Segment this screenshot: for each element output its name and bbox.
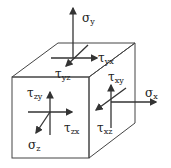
tau-yz-arrow — [66, 45, 88, 66]
label-tau-yx: τyx — [98, 51, 114, 66]
sigma-z-arrow — [36, 112, 50, 133]
label-tau-xy: τxy — [108, 70, 124, 85]
label-tau-xz: τxz — [97, 121, 112, 136]
label-tau-zx: τzx — [64, 121, 80, 136]
label-sigma-y: σy — [82, 11, 95, 26]
stress-element-diagram: σy τyx τyz τxy σx τxz τzy τzx σz — [0, 0, 171, 168]
label-sigma-z: σz — [28, 138, 40, 153]
label-sigma-x: σx — [145, 86, 158, 101]
label-tau-zy: τzy — [27, 86, 43, 101]
label-tau-yz: τyz — [55, 67, 70, 82]
